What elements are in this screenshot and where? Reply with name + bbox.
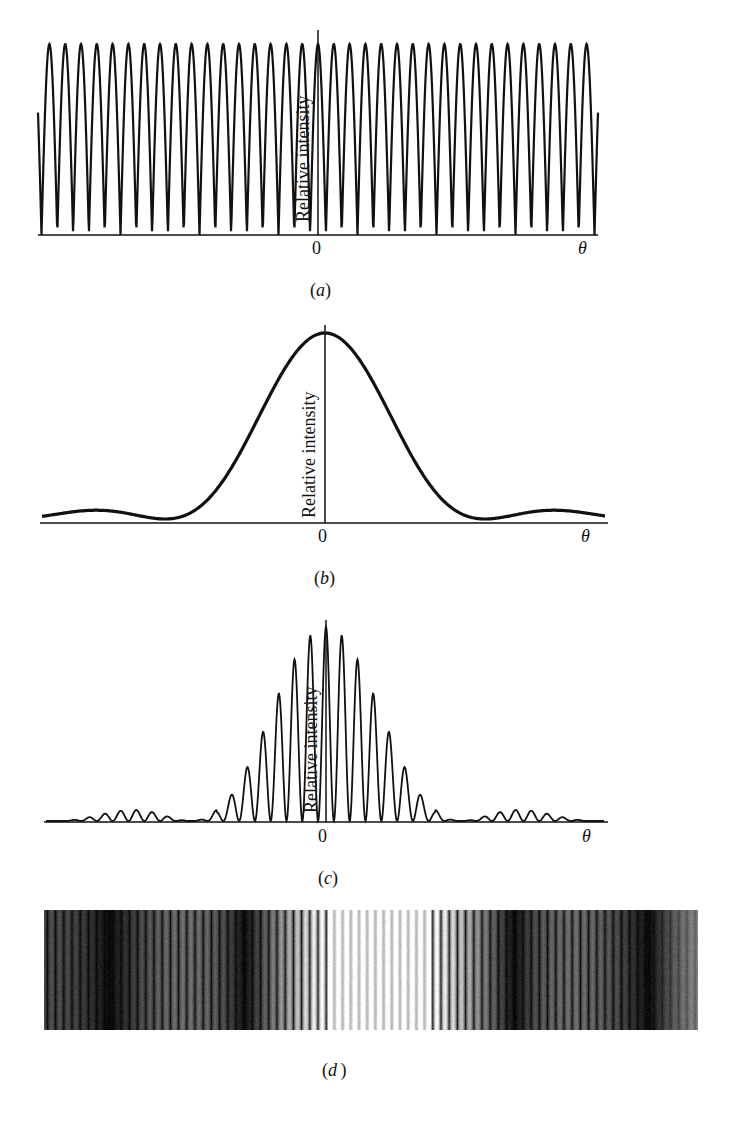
caption-d: (d ) <box>322 1060 347 1081</box>
panel-d: (d ) <box>0 0 738 1121</box>
fringe-photograph <box>44 910 698 1030</box>
